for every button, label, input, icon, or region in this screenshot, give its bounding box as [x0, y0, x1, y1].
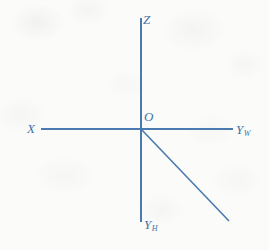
z-axis-label: Z [143, 13, 150, 26]
x-axis-label: X [27, 122, 35, 135]
axes-drawing [0, 0, 269, 250]
diagonal-axis-line [141, 129, 229, 221]
y-h-axis-label-subscript: H [151, 224, 157, 233]
origin-label-text: O [144, 109, 153, 124]
x-axis-label-text: X [27, 121, 35, 136]
coordinate-axes-figure: Z O X YW YH [0, 0, 269, 250]
origin-label: O [144, 110, 153, 123]
y-w-axis-label: YW [236, 123, 250, 138]
z-axis-label-text: Z [143, 12, 150, 27]
y-w-axis-label-subscript: W [243, 129, 250, 138]
y-h-axis-label: YH [144, 218, 158, 233]
